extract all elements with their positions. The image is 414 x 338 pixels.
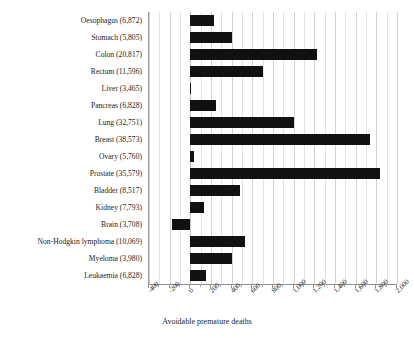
- bar-row: [149, 46, 397, 63]
- bar: [190, 83, 191, 94]
- bar-row: [149, 233, 397, 250]
- bar-row: [149, 250, 397, 267]
- category-label: Breast (38,573): [0, 131, 142, 148]
- category-label: Ovary (5,760): [0, 148, 142, 165]
- bar-row: [149, 131, 397, 148]
- bar: [172, 219, 191, 230]
- bar: [190, 253, 231, 264]
- bar: [190, 185, 240, 196]
- bar: [190, 66, 262, 77]
- category-label: Lung (32,751): [0, 114, 142, 131]
- bar-row: [149, 199, 397, 216]
- bar: [190, 202, 203, 213]
- bar-row: [149, 148, 397, 165]
- bar-row: [149, 97, 397, 114]
- bar: [190, 49, 317, 60]
- bar: [190, 168, 380, 179]
- bar-chart: Oesophagus (6,872)Stomach (5,805)Colon (…: [0, 0, 414, 338]
- bar-row: [149, 12, 397, 29]
- category-label: Kidney (7,793): [0, 199, 142, 216]
- gridline: [397, 12, 398, 284]
- bar: [190, 236, 245, 247]
- bar: [190, 117, 293, 128]
- bar-row: [149, 29, 397, 46]
- bar-row: [149, 165, 397, 182]
- category-label: Myeloma (3,980): [0, 250, 142, 267]
- bar-row: [149, 63, 397, 80]
- bar-row: [149, 114, 397, 131]
- category-label: Stomach (5,805): [0, 29, 142, 46]
- tick-mark: [200, 284, 201, 287]
- category-label: Non-Hodgkin lymphoma (10,069): [0, 233, 142, 250]
- category-label: Oesophagus (6,872): [0, 12, 142, 29]
- category-label: Bladder (8,517): [0, 182, 142, 199]
- category-label: Pancreas (6,828): [0, 97, 142, 114]
- x-axis-title: Avoidable premature deaths: [0, 317, 414, 326]
- bar: [190, 32, 231, 43]
- category-label: Colon (20,817): [0, 46, 142, 63]
- bar-row: [149, 216, 397, 233]
- category-label: Brain (3,708): [0, 216, 142, 233]
- bar: [190, 15, 214, 26]
- bar: [190, 151, 194, 162]
- bar-row: [149, 182, 397, 199]
- bar: [190, 100, 216, 111]
- bar: [190, 270, 206, 281]
- category-label: Prostate (35,579): [0, 165, 142, 182]
- plot-area: [148, 12, 397, 284]
- bar: [190, 134, 370, 145]
- tick-label: 0: [187, 287, 195, 295]
- category-label: Leukaemia (6,828): [0, 267, 142, 284]
- category-label: Rectum (11,596): [0, 63, 142, 80]
- bar-row: [149, 80, 397, 97]
- category-label: Liver (3,465): [0, 80, 142, 97]
